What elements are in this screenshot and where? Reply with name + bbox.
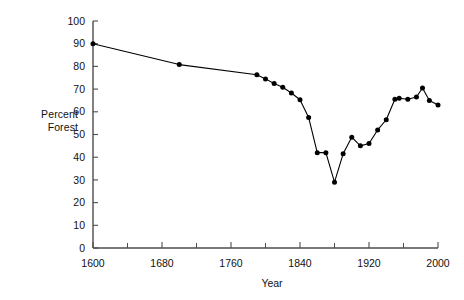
x-tick-label: 2000 <box>426 257 450 269</box>
data-point <box>427 98 432 103</box>
data-point <box>367 141 372 146</box>
data-point <box>358 143 363 148</box>
data-point <box>323 150 328 155</box>
data-point <box>289 90 294 95</box>
y-tick-label: 70 <box>73 83 85 95</box>
data-point <box>263 76 268 81</box>
y-tick-label: 90 <box>73 37 85 49</box>
x-axis-label: Year <box>0 277 464 289</box>
data-line-percent-forest <box>93 44 438 182</box>
data-point <box>280 85 285 90</box>
y-tick-label: 20 <box>73 196 85 208</box>
data-point <box>272 81 277 86</box>
data-point <box>392 97 397 102</box>
y-tick-label-group: 0102030405060708090100 <box>67 15 85 254</box>
y-tick-label: 100 <box>67 15 85 27</box>
forest-cover-line-chart: Percent Forest 0102030405060708090100 16… <box>0 0 464 300</box>
data-point <box>177 62 182 67</box>
data-point <box>420 85 425 90</box>
y-tick-label: 10 <box>73 219 85 231</box>
data-point <box>306 115 311 120</box>
data-point <box>436 102 441 107</box>
x-tick-label: 1920 <box>357 257 381 269</box>
data-point-group <box>91 41 441 184</box>
y-axis-label: Percent Forest <box>6 108 78 134</box>
data-point <box>397 96 402 101</box>
data-point <box>384 117 389 122</box>
y-tick-label: 40 <box>73 151 85 163</box>
y-axis-label-line-2: Forest <box>6 121 78 134</box>
data-point <box>414 95 419 100</box>
x-tick-mark-group <box>93 242 438 248</box>
data-point <box>349 135 354 140</box>
data-point <box>91 41 96 46</box>
x-axis-label-text: Year <box>261 277 282 289</box>
data-point <box>405 97 410 102</box>
y-tick-label: 30 <box>73 174 85 186</box>
x-tick-label: 1840 <box>288 257 312 269</box>
data-point <box>375 127 380 132</box>
x-tick-label: 1760 <box>219 257 243 269</box>
data-point <box>298 97 303 102</box>
y-tick-label: 80 <box>73 60 85 72</box>
y-tick-label: 0 <box>79 242 85 254</box>
data-point <box>254 72 259 77</box>
plot-area: 0102030405060708090100 16001680176018401… <box>0 0 464 300</box>
y-tick-mark-group <box>93 21 98 248</box>
x-tick-label: 1680 <box>150 257 174 269</box>
data-point <box>341 151 346 156</box>
data-point <box>315 150 320 155</box>
x-tick-label: 1600 <box>81 257 105 269</box>
data-point <box>332 180 337 185</box>
y-axis-label-line-1: Percent <box>6 108 78 121</box>
x-tick-label-group: 160016801760184019202000 <box>81 257 450 269</box>
